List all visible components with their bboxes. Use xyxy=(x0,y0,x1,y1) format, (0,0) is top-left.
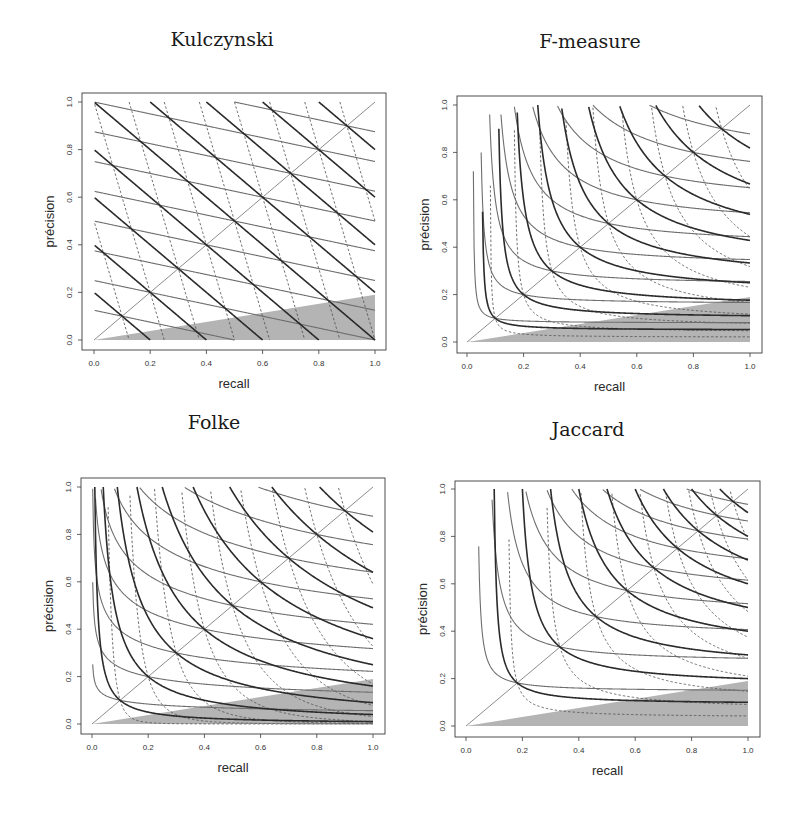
isoline xyxy=(730,492,748,541)
y-tick-label: 0.4 xyxy=(440,241,449,253)
x-tick-label: 0.8 xyxy=(311,743,323,752)
isoline xyxy=(514,130,750,330)
x-tick-label: 0.6 xyxy=(257,359,269,368)
isoline xyxy=(235,102,376,132)
isoline xyxy=(547,490,748,580)
isoline xyxy=(235,102,305,338)
isoline xyxy=(473,171,750,322)
x-tick-label: 0.4 xyxy=(199,743,211,752)
x-tick-label: 0.0 xyxy=(460,746,472,755)
isoline xyxy=(93,489,373,672)
x-tick-label: 0.0 xyxy=(88,359,100,368)
x-tick-label: 1.0 xyxy=(367,743,379,752)
y-tick-label: 0.0 xyxy=(64,718,73,730)
isoline xyxy=(95,162,375,221)
y-tick-label: 0.2 xyxy=(440,288,449,300)
y-tick-label: 0.6 xyxy=(64,576,73,588)
x-tick-label: 0.4 xyxy=(575,362,587,371)
isoline xyxy=(95,102,375,161)
x-axis-label: recall xyxy=(592,763,623,778)
x-tick-label: 0.8 xyxy=(313,359,325,368)
y-tick-label: 1.0 xyxy=(438,483,447,495)
plots-canvas: 0.00.20.40.60.81.00.00.20.40.60.81.0reca… xyxy=(0,0,802,821)
y-tick-label: 0.6 xyxy=(440,194,449,206)
y-tick-label: 0.8 xyxy=(65,143,74,155)
y-tick-label: 0.0 xyxy=(440,336,449,348)
x-axis-label: recall xyxy=(217,760,248,775)
y-tick-label: 0.4 xyxy=(64,623,73,635)
y-tick-label: 0.8 xyxy=(64,528,73,540)
x-tick-label: 1.0 xyxy=(744,362,756,371)
isoline xyxy=(566,121,750,314)
plot-3: 0.00.20.40.60.81.00.00.20.40.60.81.0reca… xyxy=(415,481,760,778)
y-tick-label: 0.6 xyxy=(438,578,447,590)
x-tick-label: 0.0 xyxy=(86,743,98,752)
y-axis-label: précision xyxy=(41,580,56,632)
x-axis-label: recall xyxy=(594,379,625,394)
y-tick-label: 1.0 xyxy=(440,99,449,111)
y-tick-label: 0.2 xyxy=(438,672,447,684)
isoline xyxy=(533,107,750,213)
y-tick-label: 0.0 xyxy=(65,334,74,346)
x-tick-label: 0.2 xyxy=(517,746,529,755)
y-tick-label: 0.8 xyxy=(438,530,447,542)
isoline xyxy=(96,499,373,649)
shaded-region xyxy=(92,679,373,724)
isoline xyxy=(547,508,748,704)
isoline xyxy=(340,102,375,221)
isoline xyxy=(558,106,750,188)
y-axis-label: précision xyxy=(415,583,430,635)
y-tick-label: 1.0 xyxy=(64,481,73,493)
x-tick-label: 1.0 xyxy=(369,359,381,368)
x-tick-label: 0.2 xyxy=(145,359,157,368)
y-tick-label: 0.0 xyxy=(438,720,447,732)
x-tick-label: 0.0 xyxy=(461,362,473,371)
isoline xyxy=(562,108,750,263)
x-tick-label: 0.4 xyxy=(573,746,585,755)
x-tick-label: 0.4 xyxy=(201,359,213,368)
isoline xyxy=(140,488,373,573)
plot-1: 0.00.20.40.60.81.00.00.20.40.60.81.0reca… xyxy=(417,96,762,394)
x-tick-label: 1.0 xyxy=(742,746,754,755)
y-tick-label: 0.2 xyxy=(64,670,73,682)
isoline xyxy=(95,221,375,280)
isoline xyxy=(490,114,750,281)
isoline xyxy=(640,489,748,521)
y-axis-label: précision xyxy=(42,195,57,247)
y-tick-label: 0.6 xyxy=(65,191,74,203)
y-tick-label: 0.4 xyxy=(65,239,74,251)
isoline xyxy=(241,490,373,705)
x-axis-label: recall xyxy=(218,376,249,391)
shaded-region xyxy=(466,681,748,726)
x-tick-label: 0.6 xyxy=(630,746,642,755)
x-tick-label: 0.2 xyxy=(143,743,155,752)
y-tick-label: 1.0 xyxy=(65,96,74,108)
isoline xyxy=(514,107,750,237)
isoline xyxy=(499,129,750,316)
x-tick-label: 0.6 xyxy=(255,743,267,752)
y-axis-label: précision xyxy=(417,198,432,250)
isoline xyxy=(683,106,750,237)
x-tick-label: 0.8 xyxy=(686,746,698,755)
isoline xyxy=(93,582,373,692)
y-tick-label: 0.8 xyxy=(440,146,449,158)
isoline xyxy=(666,492,748,637)
isoline xyxy=(517,113,750,301)
shaded-region xyxy=(467,297,750,342)
x-tick-label: 0.8 xyxy=(688,362,700,371)
x-tick-label: 0.2 xyxy=(518,362,530,371)
isoline xyxy=(164,102,234,340)
y-tick-label: 0.2 xyxy=(65,286,74,298)
plot-2: 0.00.20.40.60.81.00.00.20.40.60.81.0reca… xyxy=(41,478,385,775)
x-tick-label: 0.6 xyxy=(631,362,643,371)
isoline xyxy=(129,102,199,338)
y-tick-label: 0.4 xyxy=(438,625,447,637)
plot-0: 0.00.20.40.60.81.00.00.20.40.60.81.0reca… xyxy=(42,93,386,391)
